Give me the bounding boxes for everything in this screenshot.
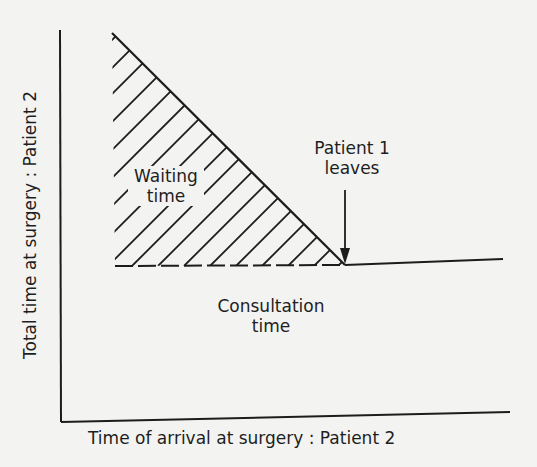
- consultation-time-label: Consultation time: [206, 296, 336, 336]
- consultation-time-label-line1: Consultation: [206, 296, 336, 316]
- y-axis-label: Total time at surgery : Patient 2: [20, 57, 40, 393]
- y-axis-line: [60, 30, 61, 422]
- patient-1-leaves-label-line1: Patient 1: [302, 138, 402, 158]
- waiting-time-label-line2: time: [130, 186, 202, 206]
- x-axis-label: Time of arrival at surgery : Patient 2: [88, 428, 428, 448]
- waiting-time-label-line1: Waiting: [130, 166, 202, 186]
- consultation-time-dashed-line: [115, 265, 345, 266]
- x-axis-line: [61, 412, 510, 422]
- patient-1-leaves-label: Patient 1 leaves: [302, 138, 402, 178]
- total-time-flat-line: [345, 259, 503, 265]
- diagram-canvas: [0, 0, 537, 467]
- patient-1-leaves-label-line2: leaves: [302, 158, 402, 178]
- waiting-time-hatching: [100, 2, 490, 266]
- consultation-time-label-line2: time: [206, 316, 336, 336]
- axes: [60, 30, 510, 422]
- waiting-time-label: Waiting time: [128, 166, 204, 206]
- down-arrow-icon: [340, 190, 350, 264]
